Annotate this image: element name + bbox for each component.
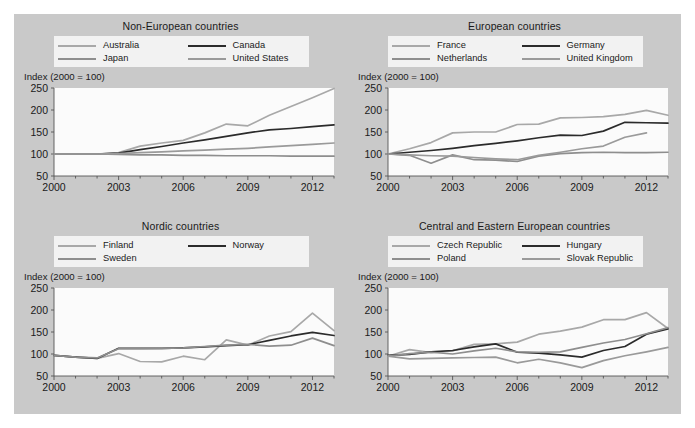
chart-svg: 5010015020025020002003200620092012 <box>358 84 674 196</box>
chart-legend: Czech Republic Hungary Poland Slovak Rep… <box>388 236 643 267</box>
legend-item: Netherlands <box>392 53 516 64</box>
x-tick-label: 2009 <box>570 181 594 193</box>
legend-swatch-icon <box>58 245 96 247</box>
panel-title: European countries <box>348 20 681 32</box>
chart-panel-nordic: Nordic countries Finland Norway Sweden <box>14 214 347 414</box>
y-tick-label: 100 <box>30 348 48 360</box>
y-tick-label: 150 <box>30 326 48 338</box>
y-tick-label: 100 <box>30 148 48 160</box>
plot-area: 5010015020025020002003200620092012 <box>358 284 674 396</box>
plot-background <box>388 288 668 376</box>
legend-label: Poland <box>437 253 466 264</box>
y-tick-label: 200 <box>364 104 382 116</box>
legend-swatch-icon <box>522 245 560 247</box>
y-tick-label: 50 <box>370 170 382 182</box>
legend-item: Japan <box>58 53 182 64</box>
legend-swatch-icon <box>188 245 226 247</box>
legend-item: United States <box>182 53 306 64</box>
x-tick-label: 2000 <box>42 181 66 193</box>
y-tick-label: 100 <box>364 348 382 360</box>
x-tick-label: 2000 <box>42 381 66 393</box>
legend-item: Finland <box>58 240 182 251</box>
legend-swatch-icon <box>522 45 560 47</box>
y-tick-label: 150 <box>364 126 382 138</box>
legend-swatch-icon <box>188 45 226 47</box>
y-tick-label: 150 <box>364 326 382 338</box>
chart-svg: 5010015020025020002003200620092012 <box>358 284 674 396</box>
y-tick-label: 250 <box>30 284 48 294</box>
chart-svg: 5010015020025020002003200620092012 <box>24 84 340 196</box>
panel-title: Central and Eastern European countries <box>348 220 681 232</box>
y-tick-label: 250 <box>364 84 382 94</box>
legend-item: Czech Republic <box>392 240 516 251</box>
legend-label: Hungary <box>567 240 602 251</box>
y-tick-label: 50 <box>36 370 48 382</box>
x-tick-label: 2012 <box>301 181 325 193</box>
axis-note: Index (2000 = 100) <box>24 71 105 82</box>
chart-legend: Finland Norway Sweden <box>54 236 309 267</box>
legend-label: Slovak Republic <box>567 253 634 264</box>
x-tick-label: 2006 <box>506 381 530 393</box>
x-tick-label: 2003 <box>441 381 465 393</box>
x-tick-label: 2009 <box>236 181 260 193</box>
axis-note: Index (2000 = 100) <box>358 271 439 282</box>
legend-item: Slovak Republic <box>516 253 640 264</box>
y-tick-label: 200 <box>364 304 382 316</box>
plot-area: 5010015020025020002003200620092012 <box>358 84 674 196</box>
legend-label: United Kingdom <box>567 53 633 64</box>
legend-swatch-icon <box>58 258 96 260</box>
y-tick-label: 200 <box>30 104 48 116</box>
x-tick-label: 2003 <box>107 381 131 393</box>
chart-panel-non-european: Non-European countries Australia Canada … <box>14 14 347 214</box>
legend-swatch-icon <box>392 45 430 47</box>
chart-svg: 5010015020025020002003200620092012 <box>24 284 340 396</box>
figure-panel-grid: Non-European countries Australia Canada … <box>14 14 681 414</box>
chart-panel-central-eastern-european: Central and Eastern European countries C… <box>348 214 681 414</box>
legend-swatch-icon <box>392 258 430 260</box>
legend-item: Australia <box>58 40 182 51</box>
x-tick-label: 2009 <box>236 381 260 393</box>
x-tick-label: 2012 <box>635 381 659 393</box>
legend-label: Czech Republic <box>437 240 502 251</box>
legend-item: Hungary <box>516 240 640 251</box>
y-tick-label: 200 <box>30 304 48 316</box>
chart-legend: France Germany Netherlands United Kingdo… <box>388 36 643 67</box>
legend-item: Germany <box>516 40 640 51</box>
x-tick-label: 2000 <box>376 181 400 193</box>
legend-label: Japan <box>103 53 128 64</box>
plot-background <box>54 288 334 376</box>
plot-area: 5010015020025020002003200620092012 <box>24 84 340 196</box>
y-tick-label: 100 <box>364 148 382 160</box>
y-tick-label: 150 <box>30 126 48 138</box>
legend-item: Canada <box>182 40 306 51</box>
legend-item: France <box>392 40 516 51</box>
legend-swatch-icon <box>188 58 226 60</box>
x-tick-label: 2006 <box>506 181 530 193</box>
legend-label: Australia <box>103 40 139 51</box>
legend-swatch-icon <box>522 258 560 260</box>
axis-note: Index (2000 = 100) <box>358 71 439 82</box>
legend-item: Norway <box>182 240 306 251</box>
plot-area: 5010015020025020002003200620092012 <box>24 284 340 396</box>
legend-label: Sweden <box>103 253 137 264</box>
legend-label: Canada <box>233 40 266 51</box>
legend-swatch-icon <box>392 58 430 60</box>
y-tick-label: 250 <box>30 84 48 94</box>
x-tick-label: 2012 <box>635 181 659 193</box>
y-tick-label: 250 <box>364 284 382 294</box>
legend-label: Netherlands <box>437 53 487 64</box>
x-tick-label: 2003 <box>441 181 465 193</box>
legend-swatch-icon <box>392 245 430 247</box>
legend-label: France <box>437 40 466 51</box>
panel-title: Non-European countries <box>14 20 347 32</box>
panel-title: Nordic countries <box>14 220 347 232</box>
y-tick-label: 50 <box>36 170 48 182</box>
legend-swatch-icon <box>58 45 96 47</box>
legend-item: Sweden <box>58 253 182 264</box>
legend-swatch-icon <box>522 58 560 60</box>
legend-label: Germany <box>567 40 605 51</box>
legend-label: Finland <box>103 240 134 251</box>
plot-background <box>54 88 334 176</box>
chart-panel-european: European countries France Germany Nether… <box>348 14 681 214</box>
legend-swatch-icon <box>58 58 96 60</box>
